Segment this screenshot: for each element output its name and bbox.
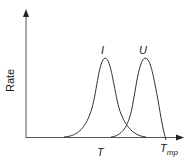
curve-label-i: I: [101, 44, 104, 56]
y-axis: [23, 9, 29, 138]
x-axis: [26, 135, 184, 141]
y-axis-arrow-icon: [23, 9, 29, 17]
curve-label-u: U: [139, 44, 147, 56]
diagram-canvas: [0, 0, 190, 163]
tmp-label: Tmp: [160, 142, 178, 157]
tmp-label-subscript: mp: [167, 148, 178, 157]
x-axis-label: T: [97, 146, 104, 158]
y-axis-label: Rate: [4, 69, 16, 92]
x-axis-arrow-icon: [176, 135, 184, 141]
curve-u: [111, 58, 166, 140]
tmp-label-main: T: [160, 142, 167, 154]
